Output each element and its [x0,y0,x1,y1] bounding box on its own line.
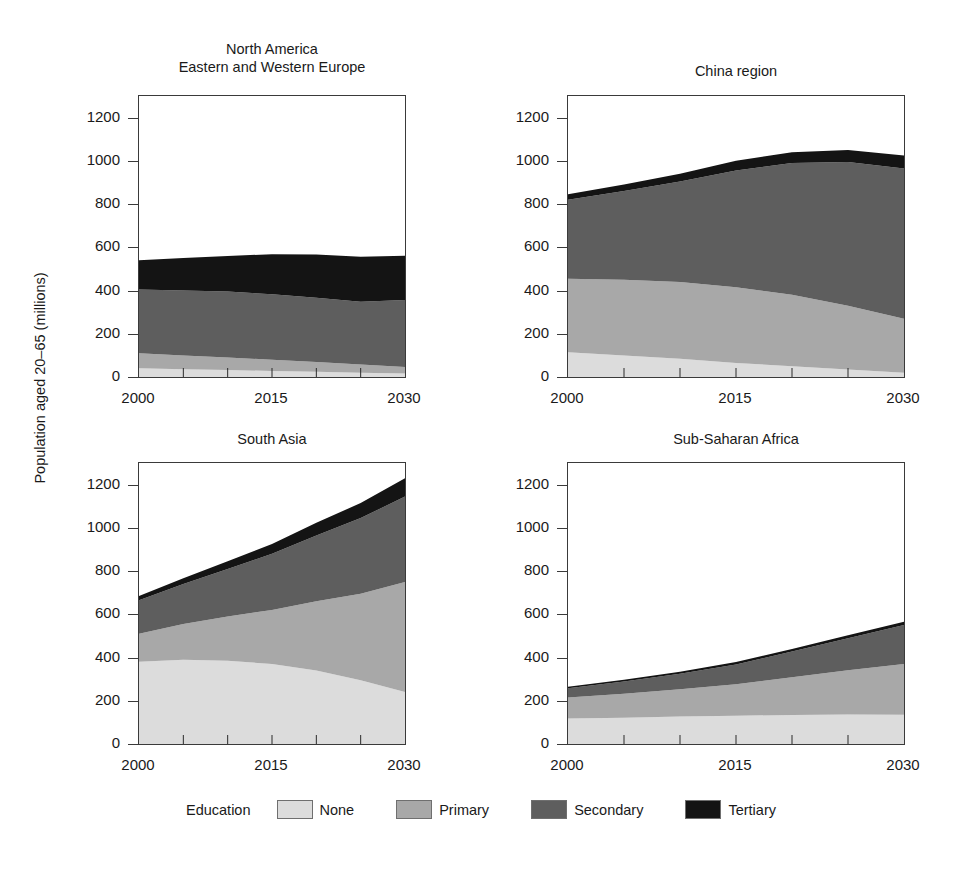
y-tick-mark [557,571,567,572]
y-tick-mark [557,744,567,745]
stacked-area-sub-saharan-africa [568,463,904,744]
legend-item-secondary[interactable]: Secondary [531,800,643,819]
legend-swatch-none-icon [277,800,313,819]
y-tick-label: 1000 [483,518,549,535]
legend-swatch-tertiary-icon [685,800,721,819]
legend-item-tertiary[interactable]: Tertiary [685,800,776,819]
y-tick-label: 800 [483,561,549,578]
y-tick-label: 400 [483,648,549,665]
panel-sub-saharan-africa: Sub-Saharan Africa0200400600800100012002… [0,0,962,872]
y-tick-mark [557,701,567,702]
legend-label: None [320,802,355,818]
legend-swatch-primary-icon [396,800,432,819]
y-tick-mark [557,528,567,529]
chart-legend: Education NonePrimarySecondaryTertiary [0,800,962,819]
panel-title-line: Sub-Saharan Africa [567,430,905,448]
y-tick-label: 200 [483,691,549,708]
legend-swatch-secondary-icon [531,800,567,819]
y-tick-label: 0 [483,734,549,751]
x-tick-label: 2015 [695,756,775,773]
x-tick-label: 2030 [863,756,943,773]
panel-title-sub-saharan-africa: Sub-Saharan Africa [567,430,905,448]
legend-label: Primary [439,802,489,818]
y-tick-label: 1200 [483,475,549,492]
legend-label: Secondary [574,802,643,818]
x-tick-label: 2000 [527,756,607,773]
legend-label: Tertiary [728,802,776,818]
y-tick-mark [557,485,567,486]
legend-item-primary[interactable]: Primary [396,800,489,819]
plot-area-sub-saharan-africa [567,462,905,745]
legend-title: Education [186,802,251,818]
y-tick-label: 600 [483,604,549,621]
figure-canvas: Population aged 20–65 (millions) North A… [0,0,962,872]
y-tick-mark [557,658,567,659]
legend-item-none[interactable]: None [277,800,355,819]
y-tick-mark [557,614,567,615]
